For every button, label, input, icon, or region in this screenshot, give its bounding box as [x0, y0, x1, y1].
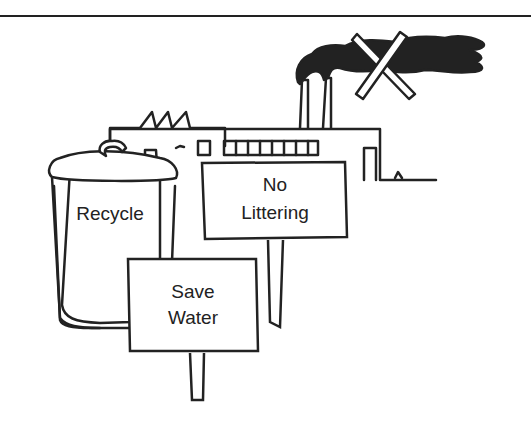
illustration: Recycle No Littering Save Water — [0, 0, 531, 423]
sign-save-water-line2: Water — [168, 307, 219, 328]
sign-save-water-line1: Save — [171, 281, 214, 302]
trash-can-label: Recycle — [76, 203, 144, 224]
factory-window — [198, 141, 210, 155]
chimney-2 — [323, 78, 331, 128]
sign-no-littering-line2: Littering — [241, 202, 309, 223]
chimney-1 — [300, 80, 308, 128]
factory-door-right — [364, 148, 376, 180]
sign-no-littering-line1: No — [263, 174, 287, 195]
trash-can-lid — [49, 151, 177, 181]
